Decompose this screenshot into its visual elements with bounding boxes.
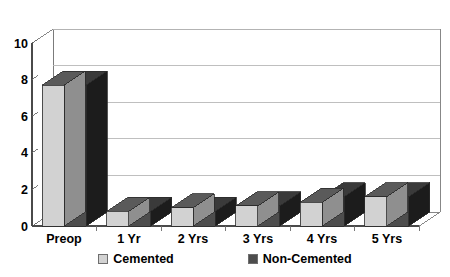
x-axis-labels: Preop 1 Yr 2 Yrs 3 Yrs 4 Yrs 5 Yrs: [46, 232, 402, 246]
bar-preop-cemented: [42, 71, 85, 226]
legend-item-non-cemented: Non-Cemented: [248, 253, 352, 266]
x-tick-label-5yrs: 5 Yrs: [372, 232, 402, 246]
x-tick-label-preop: Preop: [46, 232, 82, 246]
y-tick-label-0: 0: [21, 220, 28, 234]
chart-legend: Cemented Non-Cemented: [0, 246, 450, 272]
legend-swatch-cemented: [98, 254, 108, 264]
x-tick-label-4yrs: 4 Yrs: [307, 232, 337, 246]
y-tick-label-10: 10: [14, 37, 28, 51]
x-tick-label-2yrs: 2 Yrs: [178, 232, 208, 246]
y-tick-label-8: 8: [21, 73, 28, 87]
y-tick-label-4: 4: [21, 146, 28, 160]
x-tick-label-3yrs: 3 Yrs: [243, 232, 273, 246]
bar-chart: 10 8 6 4 2 0 Preop 1 Yr 2 Yrs 3 Yrs 4 Yr…: [0, 0, 450, 277]
legend-label-cemented: Cemented: [113, 253, 173, 266]
chart-plot-area: 10 8 6 4 2 0 Preop 1 Yr 2 Yrs 3 Yrs 4 Yr…: [0, 0, 450, 277]
back-wall: [53, 29, 440, 212]
x-axis: [32, 226, 419, 231]
legend-item-cemented: Cemented: [98, 253, 173, 266]
x-tick-label-1yr: 1 Yr: [117, 232, 141, 246]
y-tick-label-6: 6: [21, 110, 28, 124]
legend-swatch-non-cemented: [248, 254, 258, 264]
legend-label-non-cemented: Non-Cemented: [263, 253, 352, 266]
y-tick-label-2: 2: [21, 183, 28, 197]
